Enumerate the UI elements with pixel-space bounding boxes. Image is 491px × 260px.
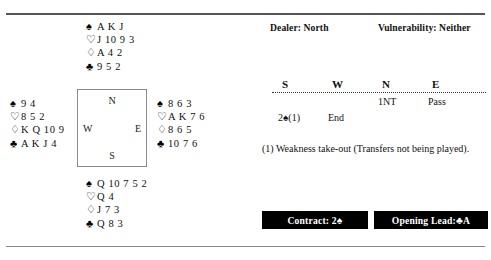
south-spade-line: ♠Q 10 7 5 2: [86, 177, 147, 190]
west-spades: 9 4: [21, 97, 36, 110]
club-icon: ♣: [86, 217, 97, 230]
north-diamond-line: ♢A 4 2: [86, 46, 135, 59]
south-diamonds: J 7 3: [97, 203, 120, 216]
south-heart-line: ♡Q 4: [86, 190, 147, 203]
compass-box: N W E S: [77, 89, 147, 167]
north-spades: A K J: [97, 20, 124, 33]
diamond-icon: ♢: [86, 203, 97, 216]
spade-icon: ♠: [86, 20, 97, 33]
south-clubs: Q 8 3: [97, 217, 123, 230]
contract-label: Contract: 2: [287, 215, 336, 226]
compass-north-label: N: [108, 95, 115, 106]
heart-icon: ♡: [10, 110, 21, 123]
auction-divider: [272, 92, 486, 93]
west-heart-line: ♡8 5 2: [10, 110, 65, 123]
bid-west-2: End: [328, 112, 344, 123]
north-diamonds: A 4 2: [97, 46, 123, 59]
club-icon: ♣: [157, 137, 168, 150]
auction-header-south: S: [282, 78, 288, 90]
north-heart-line: ♡J 10 9 3: [86, 33, 135, 46]
spade-icon: ♠: [86, 177, 97, 190]
auction-header-west: W: [332, 78, 343, 90]
east-diamonds: 8 6 5: [168, 123, 192, 136]
club-icon: ♣: [86, 60, 97, 73]
auction-row: 1NT Pass: [272, 96, 486, 111]
hand-west: ♠9 4 ♡8 5 2 ♢K Q 10 9 ♣A K J 4: [10, 97, 65, 150]
club-icon: ♣: [456, 215, 463, 226]
west-spade-line: ♠9 4: [10, 97, 65, 110]
contract-bar: Contract: 2♠: [262, 211, 368, 229]
compass-south-label: S: [109, 150, 115, 161]
west-club-line: ♣A K J 4: [10, 137, 65, 150]
heart-icon: ♡: [86, 190, 97, 203]
compass-west-label: W: [83, 123, 92, 134]
opening-lead-label: Opening Lead:: [392, 215, 456, 226]
opening-lead-card: A: [463, 215, 470, 226]
bid-north-1: 1NT: [378, 96, 396, 107]
west-diamond-line: ♢K Q 10 9: [10, 123, 65, 136]
bid-east-1: Pass: [428, 96, 446, 107]
east-spade-line: ♠8 6 3: [157, 97, 205, 110]
vulnerability-label: Vulnerability: Neither: [378, 22, 471, 33]
result-bars: Contract: 2♠ Opening Lead: ♣A: [262, 211, 488, 231]
auction-table: S W N E 1NT Pass 2♠(1) End: [272, 78, 486, 127]
diamond-icon: ♢: [10, 123, 21, 136]
spade-icon: ♠: [10, 97, 21, 110]
bottom-divider: [6, 246, 485, 247]
auction-header-east: E: [432, 78, 439, 90]
compass-east-label: E: [135, 123, 141, 134]
east-diamond-line: ♢8 6 5: [157, 123, 205, 136]
heart-icon: ♡: [157, 110, 168, 123]
hand-south: ♠Q 10 7 5 2 ♡Q 4 ♢J 7 3 ♣Q 8 3: [86, 177, 147, 230]
south-hearts: Q 4: [97, 190, 114, 203]
north-clubs: 9 5 2: [97, 60, 121, 73]
club-icon: ♣: [10, 137, 21, 150]
south-club-line: ♣Q 8 3: [86, 217, 147, 230]
east-clubs: 10 7 6: [168, 137, 198, 150]
south-spades: Q 10 7 5 2: [97, 177, 147, 190]
opening-lead-bar: Opening Lead: ♣A: [374, 211, 488, 229]
west-diamonds: K Q 10 9: [21, 123, 65, 136]
east-heart-line: ♡A K 7 6: [157, 110, 205, 123]
east-club-line: ♣10 7 6: [157, 137, 205, 150]
dealer-label: Dealer: North: [270, 22, 329, 33]
auction-panel: Dealer: North Vulnerability: Neither S W…: [262, 16, 488, 246]
heart-icon: ♡: [86, 33, 97, 46]
hand-east: ♠8 6 3 ♡A K 7 6 ♢8 6 5 ♣10 7 6: [157, 97, 205, 150]
deal-diagram: ♠A K J ♡J 10 9 3 ♢A 4 2 ♣9 5 2 ♠9 4 ♡8 5…: [0, 16, 250, 246]
west-clubs: A K J 4: [21, 137, 57, 150]
bid-south-2: 2♠(1): [278, 112, 300, 123]
spade-icon: ♠: [157, 97, 168, 110]
auction-row: 2♠(1) End: [272, 112, 486, 127]
spade-icon: ♠: [337, 215, 343, 226]
east-hearts: A K 7 6: [168, 110, 205, 123]
east-spades: 8 6 3: [168, 97, 192, 110]
north-club-line: ♣9 5 2: [86, 60, 135, 73]
top-divider: [6, 13, 485, 15]
west-hearts: 8 5 2: [21, 110, 45, 123]
diamond-icon: ♢: [157, 123, 168, 136]
bridge-hand-figure: ♠A K J ♡J 10 9 3 ♢A 4 2 ♣9 5 2 ♠9 4 ♡8 5…: [0, 0, 491, 260]
diamond-icon: ♢: [86, 46, 97, 59]
auction-header-north: N: [382, 78, 390, 90]
north-hearts: J 10 9 3: [97, 33, 135, 46]
hand-north: ♠A K J ♡J 10 9 3 ♢A 4 2 ♣9 5 2: [86, 20, 135, 73]
auction-footnote: (1) Weakness take-out (Transfers not bei…: [262, 142, 478, 156]
south-diamond-line: ♢J 7 3: [86, 203, 147, 216]
north-spade-line: ♠A K J: [86, 20, 135, 33]
auction-header-row: S W N E: [272, 78, 486, 93]
